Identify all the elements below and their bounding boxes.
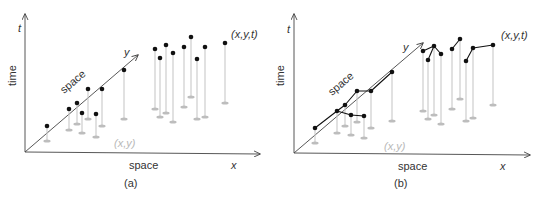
- x-axis-a: [25, 152, 260, 154]
- space-time-point: [471, 46, 476, 51]
- space-time-point: [182, 45, 187, 50]
- projection-shadow: [156, 115, 163, 118]
- projection-shadow: [430, 113, 437, 116]
- x-axis-label-a: x: [230, 159, 237, 171]
- space-time-point: [439, 52, 444, 57]
- space-time-point: [223, 41, 228, 46]
- projection-shadow: [347, 133, 354, 136]
- projection-shadow: [424, 117, 431, 120]
- space-time-point: [164, 43, 169, 48]
- space-time-point: [362, 114, 367, 119]
- projection-shadow: [187, 95, 194, 98]
- caption-b: (b): [394, 177, 407, 189]
- t-axis-label-a: t: [18, 22, 22, 34]
- projection-shadow: [448, 107, 455, 110]
- projection-shadow: [456, 97, 463, 100]
- point-label-a: (x,y,t): [231, 28, 258, 40]
- caption-a: (a): [124, 177, 137, 189]
- projection-label-b: (x,y): [384, 140, 406, 152]
- y-axis-b: [294, 43, 423, 153]
- projection-shadow: [311, 141, 318, 144]
- x-axis-b: [294, 153, 530, 155]
- projection-shadow: [73, 122, 80, 125]
- space-time-point: [432, 44, 437, 49]
- projection-shadow: [43, 139, 50, 142]
- space-time-diagram: t time y space (x,y,t) (x,y) space x (a)…: [0, 0, 542, 197]
- projection-shadow: [462, 119, 469, 122]
- space-time-point: [67, 107, 72, 112]
- projection-shadow: [78, 131, 85, 134]
- space-time-point: [45, 124, 50, 129]
- projection-shadow: [201, 115, 208, 118]
- space-time-point: [335, 109, 340, 114]
- space-time-point: [355, 89, 360, 94]
- projection-shadow: [120, 117, 127, 120]
- space-x-label-b: space: [398, 160, 427, 172]
- projection-shadow: [162, 111, 169, 114]
- space-time-point: [313, 126, 318, 131]
- space-diag-label-a: space: [58, 67, 88, 95]
- t-axis-label-b: t: [287, 23, 291, 35]
- space-time-point: [158, 56, 163, 61]
- space-time-point: [421, 49, 426, 54]
- y-axis-label-b: y: [402, 41, 410, 53]
- projection-shadow: [180, 105, 187, 108]
- projection-shadow: [151, 107, 158, 110]
- projection-shadow: [437, 122, 444, 125]
- projection-shadow: [169, 120, 176, 123]
- space-time-point: [450, 47, 455, 52]
- space-time-point: [100, 87, 105, 92]
- point-label-b: (x,y,t): [501, 29, 528, 41]
- projection-shadow: [221, 101, 228, 104]
- trajectory-line: [466, 45, 493, 61]
- space-time-point: [349, 113, 354, 118]
- space-time-point: [153, 47, 158, 52]
- y-axis-label-a: y: [123, 46, 131, 58]
- space-time-point: [369, 89, 374, 94]
- space-time-point: [491, 43, 496, 48]
- space-time-point: [203, 45, 208, 50]
- projection-shadow: [469, 116, 476, 119]
- x-axis-label-b: x: [499, 160, 506, 172]
- projection-shadow: [65, 128, 72, 131]
- projection-shadow: [92, 135, 99, 138]
- space-time-point: [122, 68, 127, 73]
- projection-shadow: [367, 126, 374, 129]
- space-time-point: [86, 87, 91, 92]
- projection-shadow: [360, 136, 367, 139]
- panel-a: t time y space (x,y,t) (x,y) space x (a): [6, 14, 260, 189]
- space-x-label-a: space: [129, 159, 158, 171]
- space-time-point: [189, 35, 194, 40]
- projection-shadow: [419, 109, 426, 112]
- space-time-point: [94, 112, 99, 117]
- projection-shadow: [333, 131, 340, 134]
- projection-shadow: [341, 124, 348, 127]
- projection-shadow: [489, 103, 496, 106]
- time-label-b: time: [274, 65, 286, 86]
- space-time-point: [75, 101, 80, 106]
- space-diag-label-b: space: [326, 69, 356, 97]
- projection-shadow: [353, 120, 360, 123]
- projection-shadow: [388, 119, 395, 122]
- projection-shadow: [193, 117, 200, 120]
- space-time-point: [343, 103, 348, 108]
- projection-label-a: (x,y): [114, 137, 136, 149]
- space-time-point: [464, 59, 469, 64]
- space-time-point: [171, 51, 176, 56]
- panel-b: t time y space (x,y,t) (x,y) space x (b): [274, 14, 530, 189]
- space-time-point: [195, 57, 200, 62]
- projection-shadow: [98, 124, 105, 127]
- space-time-point: [80, 111, 85, 116]
- projection-shadow: [84, 117, 91, 120]
- space-time-point: [458, 37, 463, 42]
- space-time-point: [426, 58, 431, 63]
- time-label-a: time: [6, 65, 18, 86]
- space-time-point: [390, 70, 395, 75]
